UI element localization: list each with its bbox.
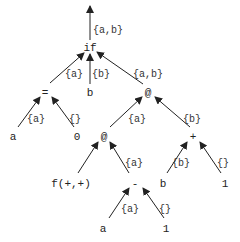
node-plus: +: [190, 131, 197, 143]
edge-label-b-plus: {b}: [172, 158, 190, 169]
edge-label-at-if: {a,b}: [133, 69, 163, 80]
node-b2: b: [160, 178, 167, 190]
node-eq: =: [42, 87, 49, 99]
expression-tree-diagram: {a,b} {a} {b} {a,b} {a} {} {a} {b} {a} {…: [0, 0, 240, 242]
edge-label-a-minus: {a}: [121, 204, 139, 215]
node-one2: 1: [163, 223, 170, 235]
edges: [18, 6, 221, 218]
edge-label-minus-at2: {a}: [125, 158, 143, 169]
edge-label-eq-if: {a}: [65, 69, 83, 80]
edge-label-0-eq: {}: [69, 114, 81, 125]
edge-label-a-eq: {a}: [27, 114, 45, 125]
edge-label-at2-at1: {a}: [128, 114, 146, 125]
node-at2: @: [101, 131, 108, 143]
node-one1: 1: [222, 178, 229, 190]
edge-label-root: {a,b}: [93, 25, 123, 36]
edge-label-1-minus: {}: [159, 204, 171, 215]
node-a2: a: [100, 223, 107, 235]
node-b1: b: [87, 87, 94, 99]
node-if: if: [83, 42, 96, 54]
edge-label-1-plus: {}: [217, 158, 229, 169]
node-at1: @: [145, 87, 152, 99]
nodes: if = b @ a 0 @ + f(+,+) - b 1 a 1: [10, 42, 229, 235]
node-f: f(+,+): [51, 178, 91, 190]
edge-label-b-if: {b}: [92, 69, 110, 80]
node-minus: -: [132, 178, 139, 190]
node-zero: 0: [74, 131, 81, 143]
edge-f-at2: [78, 142, 98, 173]
node-a1: a: [10, 131, 17, 143]
edge-label-plus-at1: {b}: [183, 114, 201, 125]
